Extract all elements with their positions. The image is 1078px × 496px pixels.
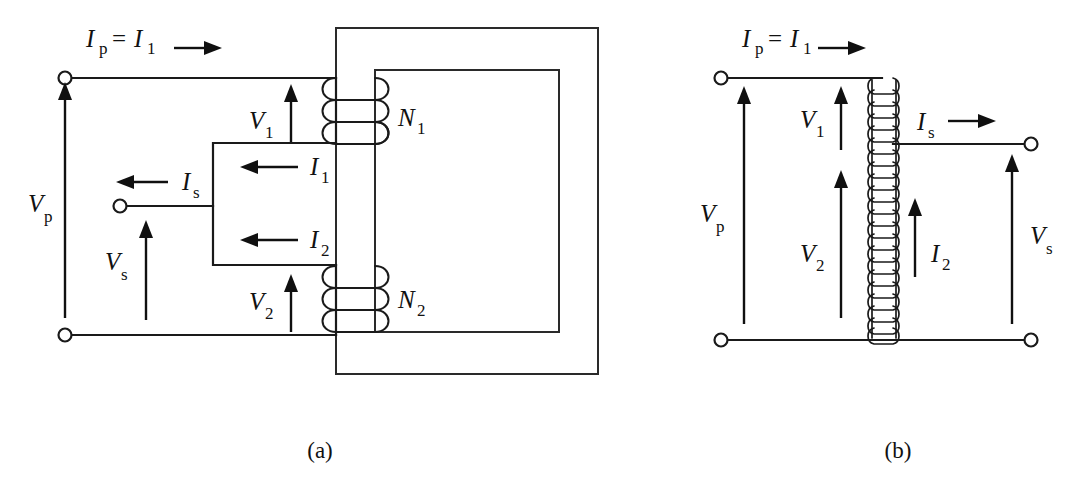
label-b-i2-sub: 2 [942, 255, 951, 274]
panel-b-group: I p = I 1 V p V 1 V 2 I s I 2 V s (b) [700, 25, 1053, 463]
b-arrow-is [948, 114, 996, 128]
winding-n1-coil [323, 78, 389, 144]
label-b-ip-equals: = [768, 25, 782, 52]
figure-container: I p = I 1 V p V s V 1 V 2 I s I 1 I 2 N … [0, 0, 1078, 496]
b-arrow-v1 [834, 86, 848, 150]
b-arrow-ip-eq-i1 [818, 41, 866, 55]
label-a-is-sub: s [193, 183, 200, 202]
arrow-i1 [240, 160, 298, 174]
label-b-vs-sub: s [1046, 239, 1053, 258]
label-a-n1-var: N [397, 104, 416, 131]
b-arrow-vp [737, 86, 751, 324]
label-a-n2-sub: 2 [417, 301, 426, 320]
label-a-v2-sub: 2 [265, 304, 274, 323]
label-b-i1-sub: 1 [803, 39, 812, 58]
label-a-ip-sub: p [99, 39, 108, 58]
terminal-secondary-tap[interactable] [114, 200, 127, 213]
b-terminal-primary-top[interactable] [715, 72, 728, 85]
label-a-vs-sub: s [121, 265, 128, 284]
label-a-i1-sub: 1 [147, 39, 156, 58]
caption-panel-b: (b) [885, 438, 912, 463]
label-b-is-sub: s [928, 123, 935, 142]
arrow-is [116, 175, 168, 189]
label-b-ip-sub: p [755, 39, 764, 58]
label-b-i1-var: I [789, 25, 800, 52]
terminal-primary-bottom[interactable] [59, 329, 72, 342]
label-a-n1-sub: 1 [417, 119, 426, 138]
b-terminal-primary-bottom[interactable] [715, 334, 728, 347]
label-b-ip-var: I [741, 25, 752, 52]
label-a-i2box-sub: 2 [321, 241, 330, 260]
label-b-i2-var: I [930, 240, 941, 267]
b-terminal-secondary-bottom[interactable] [1025, 334, 1038, 347]
label-a-n2-var: N [397, 286, 416, 313]
label-a-vp-sub: p [44, 207, 53, 226]
b-coil-spring [868, 78, 899, 344]
label-a-ip-equals: = [112, 25, 126, 52]
label-a-v1-sub: 1 [265, 123, 274, 142]
label-a-i2box-var: I [309, 226, 320, 253]
label-a-is-var: I [181, 168, 192, 195]
caption-panel-a: (a) [307, 438, 333, 463]
label-a-ip-var: I [85, 25, 96, 52]
arrow-i2 [240, 233, 298, 247]
label-b-vp-sub: p [716, 217, 725, 236]
arrow-v1 [284, 84, 298, 142]
b-terminal-secondary-top[interactable] [1025, 138, 1038, 151]
arrow-vp [58, 82, 72, 318]
label-a-i1box-var: I [309, 153, 320, 180]
panel-a-group: I p = I 1 V p V s V 1 V 2 I s I 1 I 2 N … [28, 25, 598, 463]
transformer-diagram-svg: I p = I 1 V p V s V 1 V 2 I s I 1 I 2 N … [0, 0, 1078, 496]
label-b-is-var: I [916, 108, 927, 135]
b-arrow-v2 [834, 170, 848, 318]
label-a-i1box-sub: 1 [321, 168, 330, 187]
b-arrow-vs [1005, 154, 1019, 324]
label-a-i1-var: I [133, 25, 144, 52]
arrow-vs [139, 220, 153, 320]
label-b-v2-sub: 2 [816, 256, 825, 275]
arrow-ip-eq-i1 [174, 41, 222, 55]
label-b-v1-sub: 1 [816, 122, 825, 141]
winding-n2-coil [323, 266, 389, 332]
b-arrow-i2 [908, 198, 922, 277]
arrow-v2 [284, 274, 298, 332]
